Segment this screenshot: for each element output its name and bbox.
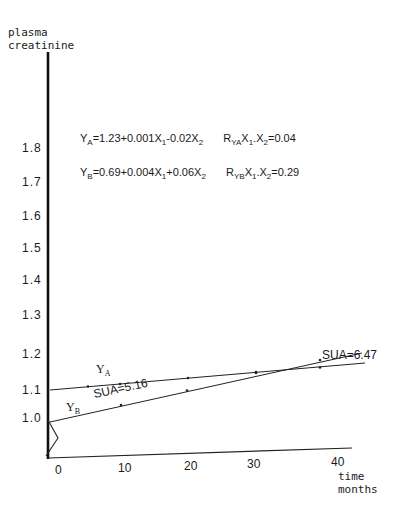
eq-b-rhs: =0.69+0.004X <box>93 166 162 178</box>
x-tick-20: 20 <box>184 459 197 473</box>
y-tick-1.8: 1.8 <box>22 141 42 155</box>
chart-plot <box>0 0 399 528</box>
y-axis-label: plasma creatinine <box>8 26 74 52</box>
annotation-sua-end: SUA=6.47 <box>322 348 377 362</box>
y-tick-1.5: 1.5 <box>22 241 42 255</box>
y-tick-1.1: 1.1 <box>22 383 42 397</box>
yb-label-sub: B <box>75 407 80 416</box>
eq-a-x2-sub: 2 <box>199 138 203 147</box>
y-axis-label-line1: plasma <box>8 26 74 39</box>
series-yb-points <box>120 359 322 407</box>
y-tick-1.2: 1.2 <box>22 347 42 361</box>
y-tick-1.0: 1.0 <box>22 411 42 425</box>
eq-a-r-val: =0.04 <box>268 132 296 144</box>
eq-a-mid: -0.02X <box>166 132 198 144</box>
eq-a-r-dot: .X <box>253 132 263 144</box>
eq-b-r-dot: .X <box>256 166 266 178</box>
yb-label-main: Y <box>66 400 75 414</box>
equation-ya: YA=1.23+0.001X1-0.02X2 RYAX1.X2=0.04 <box>80 132 296 147</box>
chart: plasma creatinine 1.8 1.7 1.6 1.5 1.4 1.… <box>0 0 399 528</box>
x-tick-10: 10 <box>118 461 131 475</box>
eq-b-mid: +0.06X <box>166 166 201 178</box>
x-axis <box>48 448 352 458</box>
eq-b-r-sub: YB <box>234 172 245 181</box>
eq-a-rhs: =1.23+0.001X <box>93 132 162 144</box>
y-tick-1.4: 1.4 <box>22 273 42 287</box>
y-tick-1.7: 1.7 <box>22 175 42 189</box>
x-axis-label: time months <box>338 470 378 496</box>
eq-b-r-x: X <box>245 166 252 178</box>
x-axis-label-line2: months <box>338 483 378 496</box>
x-tick-40: 40 <box>331 455 344 469</box>
x-tick-0: 0 <box>55 463 62 477</box>
eq-b-x2-sub: 2 <box>201 172 205 181</box>
ya-label-sub: A <box>105 369 111 378</box>
x-tick-30: 30 <box>247 457 260 471</box>
series-label-yb: YB <box>66 400 80 416</box>
series-label-ya: YA <box>96 362 110 378</box>
eq-a-r-sub: YA <box>231 138 241 147</box>
eq-a-r-x: X <box>241 132 248 144</box>
y-axis-label-line2: creatinine <box>8 39 74 52</box>
eq-b-r-val: =0.29 <box>271 166 299 178</box>
y-tick-1.3: 1.3 <box>22 308 42 322</box>
ya-label-main: Y <box>96 362 105 376</box>
equation-yb: YB=0.69+0.004X1+0.06X2 RYBX1.X2=0.29 <box>80 166 299 181</box>
y-tick-1.6: 1.6 <box>22 209 42 223</box>
eq-b-r: R <box>226 166 234 178</box>
x-axis-label-line1: time <box>338 470 378 483</box>
